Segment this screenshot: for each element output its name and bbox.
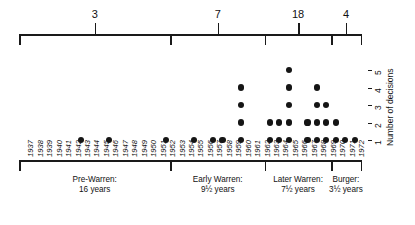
era-duration: 16 years — [40, 185, 150, 195]
x-axis-year-label: 1970 — [339, 140, 347, 157]
x-axis-era-tick — [265, 160, 267, 171]
x-axis-year-label: 1967 — [311, 140, 319, 157]
x-axis-year-label: 1964 — [282, 140, 290, 157]
data-point — [267, 119, 273, 125]
x-axis-year-label: 1950 — [150, 140, 158, 157]
x-axis-year-label: 1966 — [301, 140, 309, 157]
era-count-label: 18 — [278, 9, 318, 20]
y-axis-tick-label: 2 — [374, 123, 383, 128]
top-bracket-tick — [19, 34, 21, 45]
top-bracket-tick — [331, 34, 333, 45]
x-axis-year-label: 1962 — [264, 140, 272, 157]
x-axis-year-label: 1938 — [37, 140, 45, 157]
era-count-label: 3 — [75, 9, 115, 20]
data-point — [286, 67, 292, 73]
era-name: Pre-Warren: — [73, 175, 117, 184]
top-bracket-tick — [170, 34, 172, 45]
x-axis-era-tick — [19, 160, 21, 171]
data-point — [314, 119, 320, 125]
y-axis-tick — [368, 105, 372, 106]
x-axis-year-label: 1956 — [207, 140, 215, 157]
data-point — [323, 119, 329, 125]
y-axis-tick-label: 5 — [374, 70, 383, 75]
x-axis-era-tick — [361, 160, 363, 171]
x-axis-year-label: 1951 — [160, 140, 168, 157]
x-axis-year-label: 1945 — [103, 140, 111, 157]
x-axis-rule — [19, 160, 361, 162]
x-axis-year-label: 1940 — [56, 140, 64, 157]
data-point — [314, 102, 320, 108]
x-axis-year-label: 1971 — [349, 140, 357, 157]
data-point — [286, 84, 292, 90]
x-axis-year-label: 1965 — [292, 140, 300, 157]
y-axis-title: Number of decisions — [386, 69, 395, 146]
x-axis-year-label: 1937 — [27, 140, 35, 157]
top-bracket-rule — [19, 34, 361, 36]
dot-plot-chart: 37184 12345 Number of decisions 19371938… — [0, 0, 415, 225]
era-name: Burger: — [333, 175, 360, 184]
x-axis-year-label: 1942 — [75, 140, 83, 157]
x-axis-year-label: 1959 — [235, 140, 243, 157]
data-point — [286, 119, 292, 125]
x-axis-year-label: 1972 — [358, 140, 366, 157]
y-axis-tick-label: 1 — [374, 140, 383, 145]
x-axis-year-label: 1943 — [84, 140, 92, 157]
x-axis-year-label: 1953 — [179, 140, 187, 157]
era-count-label: 7 — [198, 9, 238, 20]
x-axis-year-label: 1939 — [46, 140, 54, 157]
data-point — [323, 102, 329, 108]
x-axis-year-label: 1958 — [226, 140, 234, 157]
y-axis-tick — [368, 140, 372, 141]
data-point — [238, 119, 244, 125]
era-duration: 3½ years — [291, 185, 401, 195]
x-axis-year-label: 1968 — [320, 140, 328, 157]
y-axis-tick-label: 4 — [374, 88, 383, 93]
data-point — [314, 84, 320, 90]
x-axis-era-tick — [170, 160, 172, 171]
top-bracket-tick — [265, 34, 267, 45]
y-axis-tick-label: 3 — [374, 105, 383, 110]
x-axis-year-label: 1949 — [141, 140, 149, 157]
top-bracket-count-tick — [346, 23, 348, 34]
data-point — [304, 119, 310, 125]
x-axis-year-label: 1948 — [131, 140, 139, 157]
x-axis-year-label: 1957 — [216, 140, 224, 157]
era-caption: Burger:3½ years — [291, 175, 401, 195]
top-bracket-count-tick — [218, 23, 220, 34]
x-axis-year-label: 1963 — [273, 140, 281, 157]
x-axis-year-label: 1946 — [112, 140, 120, 157]
x-axis-year-label: 1952 — [169, 140, 177, 157]
data-point — [238, 102, 244, 108]
era-caption: Pre-Warren:16 years — [40, 175, 150, 195]
y-axis-tick — [368, 123, 372, 124]
x-axis-year-label: 1941 — [65, 140, 73, 157]
y-axis-tick — [368, 70, 372, 71]
x-axis-year-label: 1944 — [93, 140, 101, 157]
x-axis-year-label: 1961 — [254, 140, 262, 157]
top-bracket-count-tick — [298, 23, 300, 34]
data-point — [276, 119, 282, 125]
data-point — [333, 119, 339, 125]
data-point — [238, 84, 244, 90]
top-bracket-tick — [361, 34, 363, 45]
data-point — [286, 102, 292, 108]
era-count-label: 4 — [326, 9, 366, 20]
y-axis-tick — [368, 88, 372, 89]
x-axis-year-label: 1954 — [188, 140, 196, 157]
era-name: Early Warren: — [193, 175, 243, 184]
x-axis-year-label: 1969 — [330, 140, 338, 157]
x-axis-year-label: 1955 — [197, 140, 205, 157]
x-axis-era-tick — [331, 160, 333, 171]
x-axis-year-label: 1960 — [245, 140, 253, 157]
x-axis-year-label: 1947 — [122, 140, 130, 157]
top-bracket-count-tick — [95, 23, 97, 34]
